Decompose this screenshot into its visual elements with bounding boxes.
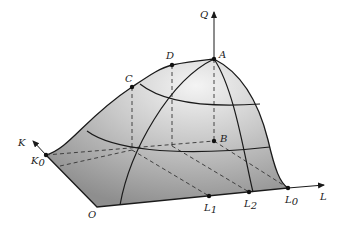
label-l2: L2	[243, 198, 257, 211]
k-axis	[33, 141, 46, 155]
label-point-b: B	[219, 133, 227, 144]
l-axis	[288, 185, 324, 188]
label-l0: L0	[284, 194, 299, 207]
label-l1: L1	[203, 202, 217, 215]
label-point-c: C	[125, 73, 133, 84]
point-C	[130, 85, 134, 89]
point-L1	[207, 194, 211, 198]
point-L0	[286, 186, 290, 190]
point-B	[212, 139, 216, 143]
point-A	[212, 57, 216, 61]
label-l-axis: L	[319, 191, 327, 202]
label-k0: K0	[30, 155, 45, 168]
label-k-axis: K	[17, 137, 26, 148]
label-origin: O	[88, 209, 96, 220]
label-point-d: D	[165, 50, 174, 61]
production-surface-diagram: Q K L A B C D O K0 L1 L2 L0	[0, 0, 343, 226]
label-q-axis: Q	[200, 9, 208, 20]
label-point-a: A	[218, 49, 226, 60]
point-D	[170, 63, 174, 67]
point-L2	[247, 190, 251, 194]
